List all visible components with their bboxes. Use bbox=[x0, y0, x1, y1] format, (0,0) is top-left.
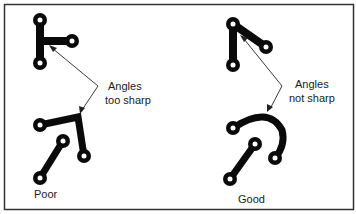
poor-callout-arrows bbox=[52, 48, 98, 110]
poor-panel: Angles too sharp Poor bbox=[33, 13, 151, 200]
good-panel: Angles not sharp Good bbox=[223, 17, 335, 205]
poor-label: Poor bbox=[34, 188, 58, 200]
frame bbox=[5, 5, 354, 210]
good-label: Good bbox=[238, 193, 265, 205]
good-callout-line2: not sharp bbox=[289, 92, 335, 104]
poor-callout-line2: too sharp bbox=[105, 94, 151, 106]
pcb-trace-angle-diagram: Angles too sharp Poor bbox=[0, 0, 356, 214]
good-callout-line1: Angles bbox=[295, 78, 329, 90]
poor-callout-line1: Angles bbox=[108, 80, 142, 92]
